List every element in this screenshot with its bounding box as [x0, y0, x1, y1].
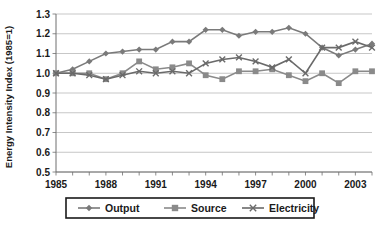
- x-axis-tick-label: 2003: [344, 179, 367, 190]
- x-axis-tick-label: 1985: [45, 179, 68, 190]
- data-point-square-marker: [253, 68, 259, 74]
- data-point-square-marker: [203, 72, 209, 78]
- x-axis-tick-label: 2000: [294, 179, 317, 190]
- energy-intensity-chart: 0.50.60.70.80.91.01.11.21.3 198519881991…: [0, 0, 380, 231]
- data-point-square-marker: [186, 60, 192, 66]
- data-point-square-marker: [352, 68, 358, 74]
- data-point-square-marker: [369, 68, 375, 74]
- y-axis-tick-label: 1.3: [36, 9, 50, 20]
- data-point-square-marker: [303, 78, 309, 84]
- y-axis-title: Energy Intensity Index (1985=1): [3, 26, 14, 168]
- chart-background: [0, 0, 380, 231]
- legend-item-label: Output: [105, 202, 140, 214]
- x-axis-tick-label: 1994: [195, 179, 218, 190]
- x-axis-tick-label: 1988: [95, 179, 118, 190]
- y-axis-tick-label: 1.2: [36, 28, 50, 39]
- y-axis-tick-label: 1.0: [36, 68, 50, 79]
- legend-item-label: Source: [191, 202, 227, 214]
- x-axis-tick-label: 1997: [244, 179, 267, 190]
- data-point-square-marker: [136, 59, 142, 65]
- y-axis-tick-label: 1.1: [36, 48, 50, 59]
- data-point-square-marker: [236, 68, 242, 74]
- y-axis-tick-label: 0.6: [36, 147, 50, 158]
- y-axis-tick-label: 0.9: [36, 88, 50, 99]
- y-axis-tick-label: 0.7: [36, 127, 50, 138]
- x-axis-tick-label: 1991: [145, 179, 168, 190]
- chart-legend: OutputSourceElectricity: [66, 198, 319, 218]
- data-point-square-marker: [319, 70, 325, 76]
- y-axis-tick-labels: 0.50.60.70.80.91.01.11.21.3: [36, 9, 56, 178]
- legend-item-label: Electricity: [269, 202, 319, 214]
- data-point-square-marker: [336, 80, 342, 86]
- data-point-square-marker: [219, 76, 225, 82]
- data-point-square-marker: [286, 72, 292, 78]
- data-point-square-marker: [172, 205, 178, 211]
- y-axis-title-text: Energy Intensity Index (1985=1): [3, 26, 14, 168]
- y-axis-tick-label: 0.5: [36, 167, 50, 178]
- y-axis-tick-label: 0.8: [36, 107, 50, 118]
